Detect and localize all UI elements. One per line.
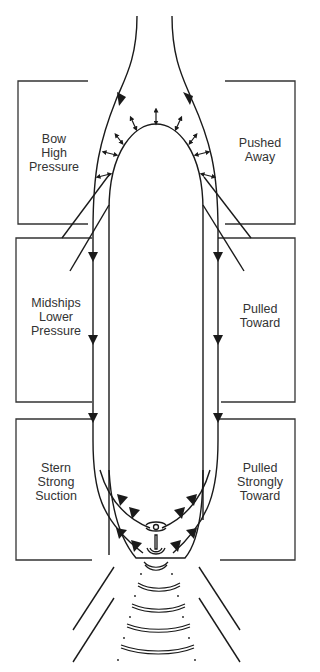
pressure-arrow-4 bbox=[116, 135, 122, 143]
wash-arc-4 bbox=[127, 624, 190, 632]
propeller-wash bbox=[121, 562, 194, 654]
pressure-arrow-9 bbox=[202, 174, 214, 177]
midships-right-label: Pulled Toward bbox=[226, 302, 294, 330]
pressure-arrow-3 bbox=[176, 118, 181, 129]
wash-line-right-2 bbox=[199, 598, 240, 662]
arrow-right-mid3 bbox=[213, 413, 223, 423]
wash-line-left-2 bbox=[73, 598, 114, 662]
bow-flow-line-left-1 bbox=[62, 175, 109, 238]
bow-flow-line-right-1 bbox=[204, 177, 251, 238]
arrow-left-mid1 bbox=[88, 252, 98, 262]
wash-arc-1 bbox=[144, 562, 168, 570]
wash-arc-5 bbox=[121, 645, 194, 654]
streamline-right bbox=[172, 16, 218, 553]
arrow-right-top bbox=[183, 92, 193, 105]
arrow-stern-r1 bbox=[186, 494, 197, 506]
pressure-arrow-2 bbox=[131, 118, 136, 129]
pressure-arrow-5 bbox=[190, 135, 196, 143]
stern-left-label: Stern Strong Suction bbox=[22, 461, 90, 503]
arrow-right-mid2 bbox=[213, 335, 223, 345]
hull-outline bbox=[109, 124, 203, 555]
bow-left-label: Bow High Pressure bbox=[22, 132, 86, 174]
stern-right-label: Pulled Strongly Toward bbox=[224, 461, 296, 503]
arrow-stern-l1 bbox=[117, 494, 128, 506]
arrow-right-mid1 bbox=[213, 252, 223, 262]
hull-stern bbox=[109, 470, 203, 558]
wash-line-right-1 bbox=[199, 567, 240, 630]
wash-line-left-1 bbox=[73, 567, 114, 630]
wash-arc-3 bbox=[132, 604, 185, 612]
arrow-left-mid3 bbox=[88, 413, 98, 423]
pressure-arrow-7 bbox=[196, 152, 208, 155]
bow-right-label: Pushed Away bbox=[227, 136, 293, 164]
pressure-arrows bbox=[98, 110, 214, 177]
midships-left-label: Midships Lower Pressure bbox=[22, 296, 90, 338]
wash-arc-2 bbox=[138, 583, 180, 591]
rudder-icon bbox=[155, 535, 157, 549]
arrow-left-top bbox=[117, 92, 126, 106]
propeller-hub bbox=[154, 525, 159, 530]
pressure-arrow-6 bbox=[104, 152, 116, 155]
